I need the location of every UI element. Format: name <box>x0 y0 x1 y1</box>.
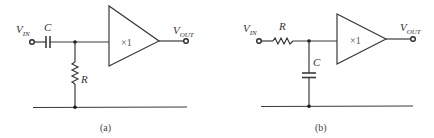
capacitor-label-a: C <box>44 21 52 33</box>
gain-label-a: ×1 <box>121 37 132 48</box>
junction-dot <box>73 106 77 110</box>
buffer-amplifier-icon <box>337 14 386 64</box>
circuit-b: VIN R C ×1 VOUT (b) <box>243 14 422 134</box>
ground-rail-a <box>33 107 187 108</box>
junction-dot <box>307 105 311 109</box>
caption-b: (b) <box>315 122 327 134</box>
output-terminal-b <box>411 37 416 42</box>
buffer-amplifier-icon <box>109 6 159 66</box>
vin-label-a: VIN <box>16 23 30 38</box>
resistor-icon <box>273 38 293 44</box>
capacitor-icon <box>46 36 50 48</box>
resistor-icon <box>72 62 78 84</box>
caption-a: (a) <box>100 122 111 134</box>
ground-rail-b <box>261 106 413 107</box>
resistor-label-a: R <box>80 73 88 85</box>
resistor-label-b: R <box>278 20 286 32</box>
input-terminal-b <box>257 39 262 44</box>
circuit-a: VIN C R ×1 VOUT (a) <box>16 6 195 134</box>
vout-label-b: VOUT <box>400 21 422 36</box>
capacitor-icon <box>302 73 316 78</box>
gain-label-b: ×1 <box>350 35 361 46</box>
capacitor-label-b: C <box>313 56 321 68</box>
vout-label-a: VOUT <box>173 24 195 39</box>
vin-label-b: VIN <box>243 22 257 37</box>
circuit-figure: VIN C R ×1 VOUT (a) VIN <box>0 0 434 138</box>
output-terminal-a <box>184 39 189 44</box>
input-terminal-a <box>30 40 35 45</box>
